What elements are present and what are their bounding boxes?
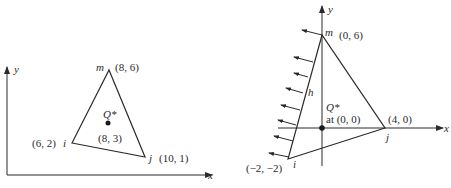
left-node-j-label: j	[147, 152, 152, 164]
flux-arrow	[286, 88, 303, 93]
left-node-j-coord: (10, 1)	[159, 152, 189, 165]
left-x-axis-label: x	[207, 169, 213, 181]
right-node-j-coord: (4, 0)	[388, 113, 412, 126]
right-node-j-label: j	[384, 131, 389, 143]
flux-arrow	[278, 120, 296, 125]
flux-arrows	[269, 30, 322, 157]
flux-arrow	[274, 136, 293, 141]
left-figure: y x m (8, 6) i (6, 2) j (10, 1) Q* (8, 3…	[7, 61, 213, 181]
right-triangle-element	[288, 35, 385, 159]
left-node-i-coord: (6, 2)	[32, 137, 56, 150]
right-node-i-label: i	[293, 158, 296, 170]
left-q-star-point	[106, 121, 111, 126]
right-q-star-coord: at (0, 0)	[326, 113, 361, 126]
left-node-m-label: m	[96, 61, 104, 73]
flux-arrow	[294, 73, 308, 77]
right-q-star-label: Q*	[326, 101, 340, 113]
right-node-m-coord: (0, 6)	[339, 29, 363, 42]
right-x-axis-label: x	[443, 122, 449, 134]
flux-arrow	[302, 30, 322, 35]
left-node-i-label: i	[63, 137, 66, 149]
left-q-star-coord: (8, 3)	[98, 132, 122, 145]
diagram-canvas: y x m (8, 6) i (6, 2) j (10, 1) Q* (8, 3…	[0, 0, 451, 188]
right-edge-h-label: h	[308, 86, 314, 98]
right-node-m-label: m	[325, 26, 333, 38]
right-node-i-coord: (−2, −2)	[246, 162, 283, 175]
left-y-axis-label: y	[13, 63, 19, 75]
flux-arrow	[281, 105, 300, 110]
flux-arrow	[269, 153, 289, 157]
right-q-star-point	[319, 125, 325, 131]
left-q-star-label: Q*	[103, 108, 117, 120]
right-figure: y x h m (0, 6) j (4, 0) i (−2, −2) Q* at…	[246, 3, 449, 175]
right-y-axis-label: y	[327, 3, 333, 15]
left-node-m-coord: (8, 6)	[115, 61, 139, 74]
flux-arrow	[294, 57, 313, 62]
